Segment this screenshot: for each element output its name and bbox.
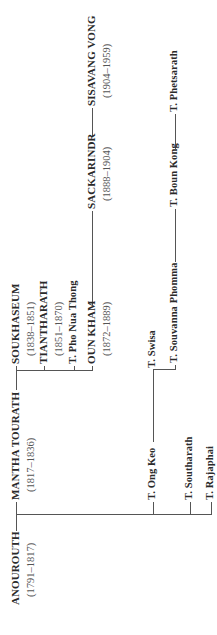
node-sackarindr: SACKARINDR (1888–1904) [86, 133, 113, 209]
node-name: T. Swisa [147, 330, 158, 368]
node-dates: (1851–1870) [54, 281, 65, 356]
node-name: SOUKHASEUM [10, 284, 21, 364]
node-name: ANOUROUTH [10, 531, 21, 605]
node-name: SISAVANG VONG [86, 15, 97, 106]
node-ong-keo: T. Ong Keo [147, 448, 158, 500]
node-boun-kong: T. Boun Kong [169, 143, 180, 207]
connector-anourouth [16, 515, 17, 531]
connector-to-soukhaseum [16, 366, 17, 371]
node-southarath: T. Southarath [184, 436, 195, 500]
node-dates: (1791–1817) [26, 531, 37, 597]
node-pho-nua-thong: T. Pho Nua Thong [68, 281, 79, 365]
node-souvanna-phomma: T. Souvanna Phomma [169, 262, 180, 363]
connector-souvanna-boun-kong [175, 209, 176, 262]
connector-ong-keo [153, 370, 154, 442]
node-name: TIANTHARATH [38, 281, 49, 364]
connector-oun-kham-sackarindr [92, 211, 93, 305]
connector-to-mantha [16, 502, 17, 515]
node-mantha-tourath: MANTHA TOURATH (1817–1836) [10, 392, 37, 500]
node-dates: (1817–1836) [26, 392, 37, 492]
node-anourouth: ANOUROUTH (1791–1817) [10, 531, 37, 605]
connector-mantha-children [16, 370, 93, 371]
connector-to-pho-nua-thong [74, 366, 75, 371]
node-soukhaseum: SOUKHASEUM (1838–1851) [10, 284, 37, 364]
node-oun-kham: OUN KHAM (1872–1889) [86, 301, 113, 364]
connector-ong-keo-children [153, 369, 176, 370]
node-swisa: T. Swisa [147, 330, 158, 368]
connector-mantha [16, 371, 17, 390]
node-name: T. Souvanna Phomma [169, 262, 180, 363]
family-tree-diagram: ANOUROUTH (1791–1817) MANTHA TOURATH (18… [0, 0, 217, 635]
node-tiantharath: TIANTHARATH (1851–1870) [38, 281, 65, 364]
node-name: T. Pho Nua Thong [68, 281, 79, 365]
node-name: SACKARINDR [86, 133, 97, 209]
node-name: OUN KHAM [86, 301, 97, 364]
node-dates: (1904–1959) [102, 15, 113, 98]
node-name: MANTHA TOURATH [10, 392, 21, 500]
connector-to-souvanna [175, 365, 176, 370]
node-name: T. Phetsarath [169, 50, 180, 112]
node-phetsarath: T. Phetsarath [169, 50, 180, 112]
node-dates: (1888–1904) [102, 133, 113, 201]
connector-anourouth-children [16, 514, 212, 515]
connector-to-tiantharath [44, 366, 45, 371]
connector-to-ong-keo [153, 502, 154, 515]
node-name: T. Southarath [184, 436, 195, 500]
node-rajaphai: T. Rajaphai [205, 446, 216, 500]
connector-to-southarath [190, 502, 191, 515]
node-name: T. Rajaphai [205, 446, 216, 500]
node-name: T. Boun Kong [169, 143, 180, 207]
connector-to-oun-kham [92, 366, 93, 371]
node-name: T. Ong Keo [147, 448, 158, 500]
node-dates: (1838–1851) [26, 284, 37, 356]
node-dates: (1872–1889) [102, 301, 113, 356]
node-sisavang-vong: SISAVANG VONG (1904–1959) [86, 15, 113, 106]
connector-to-rajaphai [211, 502, 212, 515]
